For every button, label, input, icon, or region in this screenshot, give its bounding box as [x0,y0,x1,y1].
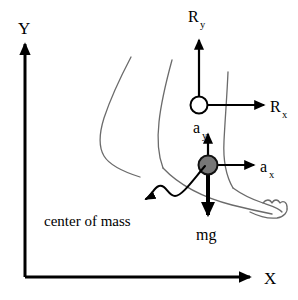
free-body-diagram-figure: Y X R y R x a y a x mg [0,0,298,300]
shin-outline-right [224,72,233,188]
coordinate-axes-group: Y X [18,19,276,288]
diagram-canvas: Y X R y R x a y a x mg [0,0,298,300]
acceleration-horizontal-sublabel: x [269,169,275,180]
center-of-mass-label: center of mass [44,213,131,229]
acceleration-vertical-sublabel: y [202,130,208,141]
reaction-horizontal-sublabel: x [282,109,288,120]
leg-foot-outline-group [100,57,287,218]
weight-group: mg [196,165,216,244]
achilles-outline [158,60,172,168]
ankle-joint-marker [191,97,208,114]
acceleration-horizontal-label: a [260,158,267,175]
weight-label: mg [196,226,216,244]
reaction-horizontal-label: R [270,98,281,115]
center-of-mass-pointer-arrow [146,166,205,199]
acceleration-vertical-label: a [193,119,200,136]
calf-outline-left [100,57,140,177]
y-axis-label: Y [18,19,30,38]
reaction-vertical-label: R [188,8,199,25]
foot-sole-outline [163,168,272,214]
x-axis-label: X [264,269,276,288]
center-of-mass-callout-group: center of mass [44,166,205,229]
toes-outline [250,200,287,218]
reaction-vertical-sublabel: y [200,19,206,30]
